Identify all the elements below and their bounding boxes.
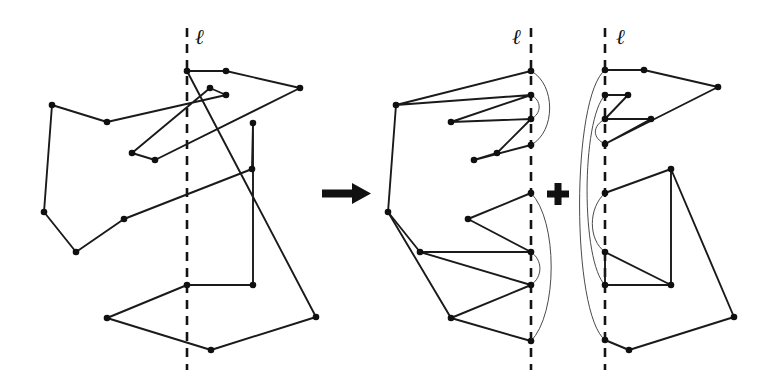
- connector-arc: [595, 119, 605, 144]
- polygon-outline-left-part-lower: [420, 193, 531, 341]
- connector-arc: [531, 252, 540, 285]
- vertex-dot: [471, 157, 478, 164]
- vertex-dot: [528, 338, 535, 345]
- polygon-outline-left-part-side-lower: [388, 212, 451, 318]
- cut-line-label-right: ℓ: [616, 27, 625, 48]
- vertex-dot: [104, 315, 111, 322]
- plus-operator: [547, 183, 569, 205]
- vertex-dot: [104, 119, 111, 126]
- plus-icon: [547, 183, 569, 205]
- vertex-group-right-part: [602, 67, 738, 354]
- vertex-dot: [626, 347, 633, 354]
- vertex-dot: [448, 315, 455, 322]
- vertex-dot: [602, 249, 609, 256]
- vertex-dot: [121, 216, 128, 223]
- vertex-dot: [528, 190, 535, 197]
- vertex-dot: [715, 84, 722, 91]
- vertex-dot: [602, 141, 609, 148]
- vertex-dot: [602, 282, 609, 289]
- panel-left-part-polygon: [385, 28, 552, 370]
- vertex-dot: [602, 116, 609, 123]
- connector-arc: [587, 95, 605, 285]
- vertex-dot: [528, 142, 535, 149]
- vertex-dot: [602, 337, 609, 344]
- panel-right-part-polygon: [580, 28, 738, 370]
- right-arrow-icon: [322, 183, 371, 204]
- vertex-dot: [494, 150, 501, 157]
- vertex-dot: [648, 116, 655, 123]
- vertex-group-left-part: [385, 68, 535, 345]
- vertex-dot: [393, 102, 400, 109]
- vertex-dot: [528, 116, 535, 123]
- connector-arc: [531, 193, 551, 341]
- vertex-dot: [528, 92, 535, 99]
- connector-arc-group-middle: [531, 71, 551, 341]
- cut-line-label-middle: ℓ: [512, 27, 521, 48]
- connector-arc-group-right: [580, 70, 606, 340]
- vertex-group-original: [41, 68, 320, 354]
- vertex-dot: [129, 150, 136, 157]
- vertex-dot: [528, 68, 535, 75]
- polygon-outline-left-part-side: [388, 105, 420, 252]
- connector-arc: [580, 70, 606, 340]
- connector-arc: [531, 71, 550, 145]
- vertex-dot: [528, 282, 535, 289]
- polygon-outline-left-part: [396, 71, 531, 160]
- vertex-dot: [208, 347, 215, 354]
- polygon-outline-original: [44, 71, 316, 350]
- vertex-dot: [41, 209, 48, 216]
- panel-original-polygon: [41, 28, 320, 370]
- vertex-dot: [417, 249, 424, 256]
- vertex-dot: [184, 68, 191, 75]
- vertex-dot: [385, 209, 392, 216]
- diagram-canvas: [0, 0, 772, 388]
- vertex-dot: [49, 102, 56, 109]
- vertex-dot: [448, 119, 455, 126]
- vertex-dot: [152, 157, 159, 164]
- vertex-dot: [465, 216, 472, 223]
- vertex-dot: [668, 166, 675, 173]
- vertex-dot: [602, 190, 609, 197]
- vertex-dot: [223, 92, 230, 99]
- vertex-dot: [73, 249, 80, 256]
- arrow-operator: [322, 183, 371, 204]
- vertex-dot: [641, 67, 648, 74]
- vertex-dot: [297, 85, 304, 92]
- vertex-dot: [625, 92, 632, 99]
- vertex-dot: [250, 282, 257, 289]
- vertex-dot: [249, 166, 256, 173]
- polygon-outline-right-part-boundary: [605, 169, 734, 350]
- vertex-dot: [602, 67, 609, 74]
- vertex-dot: [313, 314, 320, 321]
- vertex-dot: [731, 314, 738, 321]
- connector-arc: [592, 193, 605, 252]
- vertex-dot: [207, 85, 214, 92]
- vertex-dot: [528, 249, 535, 256]
- figure-root: ℓ ℓ ℓ: [0, 0, 772, 388]
- vertex-dot: [250, 120, 257, 127]
- vertex-dot: [602, 92, 609, 99]
- cut-line-label-left: ℓ: [195, 27, 204, 48]
- vertex-dot: [184, 282, 191, 289]
- vertex-dot: [223, 68, 230, 75]
- polygon-outline-right-part-upper: [605, 70, 718, 144]
- polygon-outline-right-part-lower: [605, 169, 671, 285]
- vertex-dot: [668, 282, 675, 289]
